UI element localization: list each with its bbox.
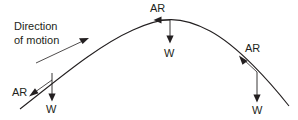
weight-vector-descending <box>253 72 260 103</box>
air-resistance-label-descending: AR <box>245 42 260 55</box>
weight-label-descending: W <box>252 104 262 117</box>
diagram-canvas <box>0 0 298 120</box>
projectile-force-diagram: Direction of motion AR W AR W AR W <box>0 0 298 120</box>
weight-label-ascending: W <box>46 103 56 116</box>
air-resistance-label-ascending: AR <box>12 86 27 99</box>
weight-vector-apex <box>166 20 173 44</box>
direction-of-motion-label-line1: Direction <box>14 19 57 33</box>
air-resistance-vector-ascending <box>29 80 52 97</box>
air-resistance-label-apex: AR <box>150 2 165 15</box>
direction-of-motion-label-line2: of motion <box>14 33 59 47</box>
weight-vector-ascending <box>48 73 55 102</box>
air-resistance-vector-descending <box>239 56 257 73</box>
weight-label-apex: W <box>164 47 174 60</box>
air-resistance-vector-apex <box>154 16 171 23</box>
